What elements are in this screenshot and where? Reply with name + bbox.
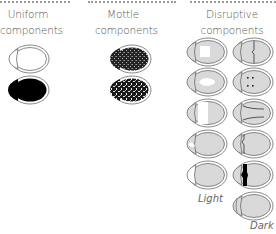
heading-uniform: Uniform [0,8,56,20]
beetle-mottle-dark [108,44,152,74]
beetle-mottle-speckled [108,75,152,105]
beetle-disruptive-head-notch-light [184,129,228,159]
beetle-disruptive-square-patch [184,37,228,67]
heading-mottle-sub: components [95,24,151,36]
beetle-disruptive-head-shade [230,129,274,159]
beetle-disruptive-dark-plain [230,191,274,221]
beetle-disruptive-teardrop-patch [184,67,228,97]
beetle-disruptive-head-notch-white [184,160,228,190]
beetle-disruptive-vertical-line [230,37,274,67]
divider-mottle [88,1,176,3]
beetle-disruptive-black-band [230,160,274,190]
beetle-disruptive-radial-lines [230,98,274,128]
divider-uniform [0,1,70,3]
heading-mottle: Mottle [95,8,151,20]
label-dark: Dark [250,220,274,231]
beetle-disruptive-band-patch [184,98,228,128]
beetle-disruptive-four-dots [230,67,274,97]
divider-disruptive [190,1,276,3]
heading-disruptive: Disruptive [200,8,264,20]
heading-uniform-sub: components [0,24,56,36]
label-light: Light [198,193,223,204]
beetle-uniform-white [6,44,50,74]
beetle-uniform-black [6,75,50,105]
heading-disruptive-sub: components [200,24,264,36]
